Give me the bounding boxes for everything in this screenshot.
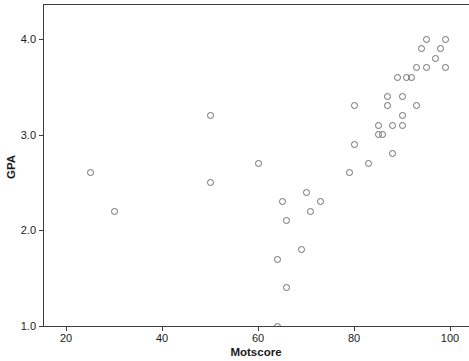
scatter-chart: 4.03.02.01.0 20406080100 GPA Motscore [0, 0, 469, 361]
data-point-marker [279, 198, 286, 205]
y-axis-tick-label: 3.0 [0, 128, 36, 142]
data-point-marker [399, 93, 406, 100]
data-point-marker [413, 102, 420, 109]
data-point-marker [423, 64, 430, 71]
data-point-marker [384, 102, 391, 109]
data-point-marker [437, 45, 444, 52]
x-axis-tick [258, 326, 259, 331]
data-point-marker [274, 256, 281, 263]
data-point-marker [432, 55, 439, 62]
data-point-marker [389, 150, 396, 157]
data-point-marker [351, 141, 358, 148]
x-axis-tick-label: 20 [46, 332, 86, 345]
x-axis-tick-label: 40 [142, 332, 182, 345]
data-point-marker [283, 217, 290, 224]
y-axis-title: GPA [5, 155, 17, 179]
data-point-marker [399, 122, 406, 129]
x-axis-tick [354, 326, 355, 331]
data-point-marker [307, 208, 314, 215]
x-axis-tick [450, 326, 451, 331]
x-axis-tick-label: 60 [238, 332, 278, 345]
data-point-marker [394, 74, 401, 81]
data-point-marker [384, 93, 391, 100]
y-axis-tick-label: 2.0 [0, 223, 36, 237]
data-point-marker [442, 36, 449, 43]
data-point-marker [365, 160, 372, 167]
data-point-marker [111, 208, 118, 215]
plot-area [43, 4, 469, 327]
x-axis-tick-label: 100 [430, 332, 469, 345]
y-axis-tick [39, 135, 43, 136]
data-point-marker [442, 64, 449, 71]
data-point-marker [379, 131, 386, 138]
data-point-marker [351, 102, 358, 109]
data-point-marker [274, 323, 281, 328]
x-axis-tick-label: 80 [334, 332, 374, 345]
data-point-marker [298, 246, 305, 253]
data-point-marker [346, 169, 353, 176]
data-point-marker [303, 189, 310, 196]
data-point-marker [87, 169, 94, 176]
data-point-marker [399, 112, 406, 119]
data-point-marker [255, 160, 262, 167]
x-axis-tick [162, 326, 163, 331]
y-axis-tick-label: 1.0 [0, 319, 36, 333]
x-axis-title: Motscore [43, 346, 469, 358]
data-point-marker [375, 122, 382, 129]
data-point-marker [207, 179, 214, 186]
x-axis-tick [66, 326, 67, 331]
y-axis-tick-label: 4.0 [0, 32, 36, 46]
data-point-marker [317, 198, 324, 205]
data-point-marker [207, 112, 214, 119]
data-point-marker [408, 74, 415, 81]
y-axis-tick [39, 230, 43, 231]
data-point-marker [423, 36, 430, 43]
y-axis-tick [39, 326, 43, 327]
data-point-marker [389, 122, 396, 129]
data-point-marker [413, 64, 420, 71]
data-point-marker [418, 45, 425, 52]
y-axis-tick [39, 39, 43, 40]
data-point-marker [283, 284, 290, 291]
